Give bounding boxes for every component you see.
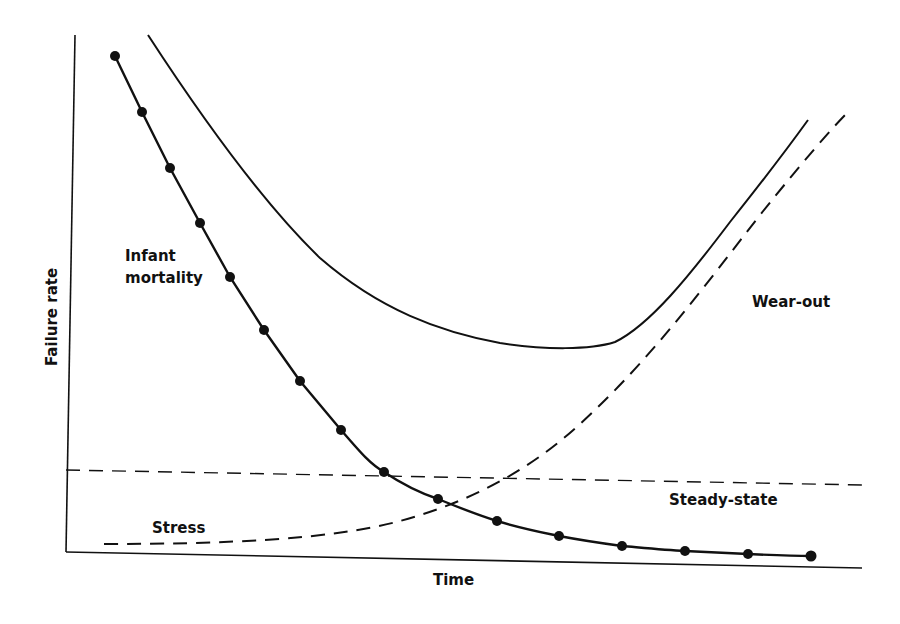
infant-mortality-label-line1: Infant xyxy=(125,247,176,265)
data-point xyxy=(680,546,690,556)
data-point xyxy=(295,376,305,386)
bathtub-curve-chart: Infant mortality Wear-out Steady-state S… xyxy=(0,0,900,624)
wear-out-curve xyxy=(104,110,850,544)
data-point xyxy=(336,425,346,435)
axes xyxy=(66,35,862,568)
bathtub-curve xyxy=(148,35,808,348)
data-point xyxy=(225,272,235,282)
infant-mortality-label-line2: mortality xyxy=(125,269,203,287)
data-point xyxy=(110,51,120,61)
data-point xyxy=(433,494,443,504)
data-point xyxy=(743,549,753,559)
y-axis-title: Failure rate xyxy=(43,268,61,366)
infant-mortality-markers xyxy=(110,51,817,562)
data-point xyxy=(259,325,269,335)
wear-out-label: Wear-out xyxy=(752,293,830,311)
x-axis-title: Time xyxy=(433,571,474,589)
stress-label: Stress xyxy=(152,519,205,537)
data-point xyxy=(554,531,564,541)
data-point xyxy=(195,218,205,228)
data-point xyxy=(165,163,175,173)
data-point xyxy=(806,551,817,562)
steady-state-line xyxy=(66,470,862,485)
data-point xyxy=(617,541,627,551)
data-point xyxy=(137,107,147,117)
data-point xyxy=(492,516,502,526)
y-axis xyxy=(66,35,75,552)
data-point xyxy=(379,467,389,477)
steady-state-label: Steady-state xyxy=(669,491,778,509)
infant-mortality-curve xyxy=(115,56,811,556)
